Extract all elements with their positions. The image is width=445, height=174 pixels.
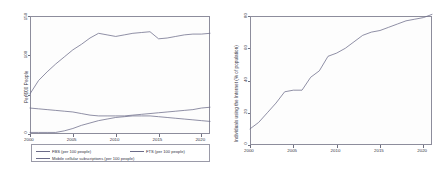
series-line: [30, 107, 210, 116]
right-x-tick-2015: 2015: [374, 148, 384, 153]
left-panel: Per 100 People 0 50 100 150 2000 2005 20…: [0, 0, 222, 174]
right-x-tick-2000: 2000: [244, 148, 254, 153]
right-y-tick-40: 40: [242, 77, 247, 82]
left-x-tick-2010: 2010: [110, 137, 120, 142]
left-x-tick-2015: 2015: [153, 137, 163, 142]
series-line: [30, 32, 210, 94]
left-plot-area: [30, 16, 210, 134]
series-line: [30, 116, 210, 133]
legend-item-fbs: FBS (per 100 people): [36, 149, 91, 154]
right-x-tick-2020: 2020: [417, 148, 427, 153]
legend-label-mobile: Mobile cellular subscriptions (per 100 p…: [52, 156, 134, 161]
legend-label-fbs: FBS (per 100 people): [52, 149, 91, 154]
right-y-axis-title: Individuals using the Internet (% of pop…: [234, 45, 239, 142]
legend-label-fts: FTS (per 100 people): [146, 149, 185, 154]
legend-item-fts: FTS (per 100 people): [130, 149, 185, 154]
right-plot-area: [250, 16, 432, 145]
two-panel-line-chart-figure: Per 100 People 0 50 100 150 2000 2005 20…: [0, 0, 445, 174]
right-x-tick-2005: 2005: [287, 148, 297, 153]
series-line: [250, 14, 432, 128]
legend-key-fbs: [36, 151, 50, 152]
left-y-axis-title: Per 100 People: [24, 71, 29, 103]
left-x-tick-2005: 2005: [67, 137, 77, 142]
legend-key-fts: [130, 151, 144, 152]
left-x-tick-2020: 2020: [195, 137, 205, 142]
legend-key-mobile: [36, 158, 50, 159]
left-legend: FBS (per 100 people) FTS (per 100 people…: [31, 144, 210, 162]
left-x-tick-2000: 2000: [24, 137, 34, 142]
right-x-tick-2010: 2010: [331, 148, 341, 153]
right-panel: Individuals using the Internet (% of pop…: [222, 0, 445, 174]
legend-item-mobile: Mobile cellular subscriptions (per 100 p…: [36, 156, 134, 161]
